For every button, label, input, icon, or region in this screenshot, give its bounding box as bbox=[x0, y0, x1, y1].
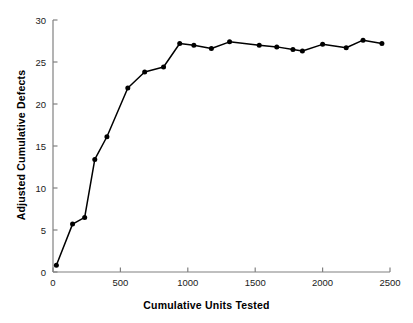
x-tick-label: 2500 bbox=[379, 277, 400, 288]
series-data-point bbox=[161, 65, 166, 70]
chart-container: 05001000150020002500051015202530 Cumulat… bbox=[0, 0, 413, 323]
series-data-point bbox=[257, 43, 262, 48]
y-tick-label: 10 bbox=[35, 183, 46, 194]
y-tick-label: 30 bbox=[35, 15, 46, 26]
x-tick-label: 1000 bbox=[177, 277, 198, 288]
series-data-point bbox=[177, 41, 182, 46]
series-data-point bbox=[82, 215, 87, 220]
x-tick-label: 500 bbox=[112, 277, 128, 288]
series-data-point bbox=[70, 222, 75, 227]
series-data-point bbox=[191, 43, 196, 48]
y-tick-label: 15 bbox=[35, 141, 46, 152]
x-tick-label: 1500 bbox=[245, 277, 266, 288]
chart-data-series bbox=[54, 38, 385, 268]
x-tick-label: 2000 bbox=[312, 277, 333, 288]
y-tick-label: 0 bbox=[41, 267, 46, 278]
series-data-point bbox=[300, 49, 305, 54]
series-data-point bbox=[125, 86, 130, 91]
series-data-point bbox=[92, 157, 97, 162]
series-line bbox=[56, 40, 382, 265]
series-data-point bbox=[142, 70, 147, 75]
series-data-point bbox=[320, 42, 325, 47]
series-data-point bbox=[344, 45, 349, 50]
y-tick-label: 25 bbox=[35, 57, 46, 68]
series-data-point bbox=[361, 38, 366, 43]
series-data-point bbox=[290, 47, 295, 52]
chart-axes bbox=[53, 20, 390, 272]
y-tick-label: 20 bbox=[35, 99, 46, 110]
series-data-point bbox=[54, 263, 59, 268]
series-data-point bbox=[209, 46, 214, 51]
x-tick-label: 0 bbox=[50, 277, 55, 288]
chart-tick-marks bbox=[53, 20, 390, 272]
y-axis-title: Adjusted Cumulative Defects bbox=[15, 45, 27, 245]
series-data-point bbox=[274, 44, 279, 49]
y-tick-label: 5 bbox=[41, 225, 46, 236]
x-axis-title: Cumulative Units Tested bbox=[0, 299, 413, 311]
series-data-point bbox=[227, 39, 232, 44]
line-chart-plot: 05001000150020002500051015202530 bbox=[0, 0, 413, 323]
series-data-point bbox=[104, 134, 109, 139]
series-data-point bbox=[379, 41, 384, 46]
chart-tick-labels: 05001000150020002500051015202530 bbox=[35, 15, 400, 288]
